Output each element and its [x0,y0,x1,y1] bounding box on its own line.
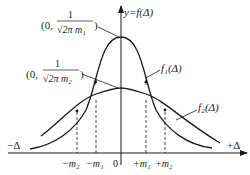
x-neg-label: −Δ [7,139,20,151]
peak-f1-suffix: ) [94,19,98,32]
leader-peak-f1 [98,27,119,37]
peak-f2-suffix: ) [80,68,84,81]
tick-label-neg-m2: −m₂ [62,158,80,169]
peak-f1-denominator: √2π m₁ [57,24,86,35]
tick-label-pos-m2: +m₂ [155,158,173,169]
origin-label: 0 [113,158,118,169]
curve-f1-label: f₁(Δ) [161,62,182,75]
curve-f2-label: f₂(Δ) [198,101,219,114]
leader-f1-label [146,70,160,78]
peak-f1-numerator: 1 [68,9,73,20]
inflection-point-f2-right [164,109,167,112]
tick-label-neg-m1: −m₁ [86,158,103,169]
diagram-canvas: y=f(Δ) (0, 1 √2π m₁ ) (0, 1 √2π m₂ ) f₁(… [0,0,250,175]
normal-distribution-diagram: y=f(Δ) (0, 1 √2π m₁ ) (0, 1 √2π m₂ ) f₁(… [0,0,250,175]
leader-peak-f2 [82,74,118,88]
peak-f2-prefix: (0, [26,68,38,81]
y-axis-label: y=f(Δ) [123,6,153,19]
peak-f2-denominator: √2π m₂ [43,73,72,84]
peak-f1-prefix: (0, [41,19,53,32]
curve-f2 [41,88,220,143]
x-pos-label: +Δ [227,139,240,151]
inflection-point-f2-left [76,110,79,113]
tick-label-pos-m1: +m₁ [133,158,150,169]
peak-f2-numerator: 1 [55,58,60,69]
